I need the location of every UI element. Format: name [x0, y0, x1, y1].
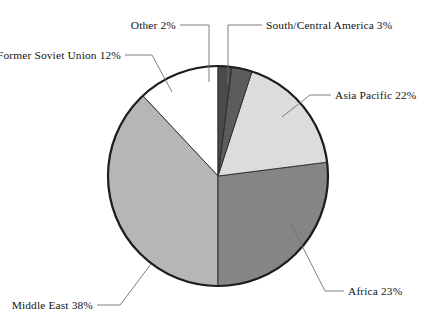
pie-slice-africa[interactable]	[218, 162, 328, 286]
pie-slices-group	[108, 66, 328, 286]
pie-label-former-soviet-union: Former Soviet Union 12%	[0, 49, 121, 61]
pie-chart-canvas: Other 2% South/Central America 3% Former…	[0, 0, 437, 331]
pie-chart-figure: Other 2% South/Central America 3% Former…	[0, 0, 437, 331]
pie-label-other: Other 2%	[131, 19, 177, 31]
pie-label-south-central-america: South/Central America 3%	[266, 19, 393, 31]
pie-label-asia-pacific: Asia Pacific 22%	[335, 89, 417, 101]
pie-label-middle-east: Middle East 38%	[12, 299, 94, 311]
pie-label-africa: Africa 23%	[348, 285, 403, 297]
leader-line-middle-east	[97, 264, 151, 305]
